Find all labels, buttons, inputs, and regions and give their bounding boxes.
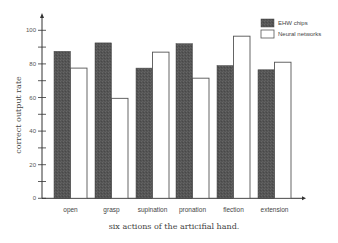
y-tick-label: 20 xyxy=(29,162,36,168)
bar-group-flection xyxy=(217,36,250,198)
ehw-bar xyxy=(136,68,153,198)
bar-group-open xyxy=(54,51,87,198)
y-axis-arrow-icon xyxy=(40,13,44,18)
x-axis-arrow-icon xyxy=(302,196,306,200)
nn-bar xyxy=(234,36,251,198)
x-axis-labels: opengraspsupinationpronationflectionexte… xyxy=(63,206,289,214)
ehw-bar xyxy=(54,51,71,198)
x-category-label: extension xyxy=(261,206,289,213)
ehw-bar xyxy=(258,70,275,199)
x-axis-caption: six actions of the articifial hand. xyxy=(109,222,240,231)
ehw-bar xyxy=(95,43,112,198)
y-tick-label: 60 xyxy=(29,95,36,101)
ehw-bar xyxy=(217,66,234,199)
legend-label: Neural networks xyxy=(278,31,321,37)
y-axis-label: correct output rate xyxy=(14,76,23,154)
x-category-label: grasp xyxy=(103,206,120,214)
ehw-bar xyxy=(176,44,193,199)
x-category-label: supination xyxy=(138,206,168,214)
legend-swatch xyxy=(261,19,274,27)
x-category-label: pronation xyxy=(179,206,206,214)
bar-chart: 020406080100 opengraspsupinationpronatio… xyxy=(0,0,338,243)
legend-item-neural-networks: Neural networks xyxy=(261,30,321,38)
y-tick-label: 40 xyxy=(29,128,36,134)
nn-bar xyxy=(275,62,292,198)
legend-swatch xyxy=(261,30,274,38)
y-tick-label: 100 xyxy=(26,27,37,33)
bar-group-grasp xyxy=(95,43,128,198)
nn-bar xyxy=(193,78,210,198)
y-tick-label: 0 xyxy=(33,195,37,201)
nn-bar xyxy=(112,98,129,198)
y-tick-label: 80 xyxy=(29,61,36,67)
legend-label: EHW chips xyxy=(278,20,308,26)
bars xyxy=(54,36,291,198)
x-category-label: open xyxy=(63,206,78,214)
bar-group-pronation xyxy=(176,44,209,199)
bar-group-supination xyxy=(136,52,169,198)
legend: EHW chipsNeural networks xyxy=(261,19,321,38)
nn-bar xyxy=(153,52,170,198)
nn-bar xyxy=(71,68,88,198)
x-category-label: flection xyxy=(223,206,244,213)
bar-group-extension xyxy=(258,62,291,198)
legend-item-ehw-chips: EHW chips xyxy=(261,19,308,27)
